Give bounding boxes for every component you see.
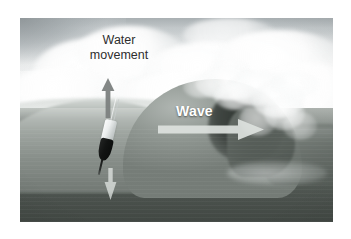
wave-label: Wave [176,103,213,119]
wave-diagram-figure: Water movement Wave [0,0,351,239]
water-movement-down-arrow [104,168,117,200]
water-movement-label: Water movement [70,33,168,62]
water-movement-up-arrow [101,78,115,118]
buoy-keel [98,157,104,175]
wave-direction-arrow [158,119,264,140]
buoy-float-bottom [96,137,114,161]
